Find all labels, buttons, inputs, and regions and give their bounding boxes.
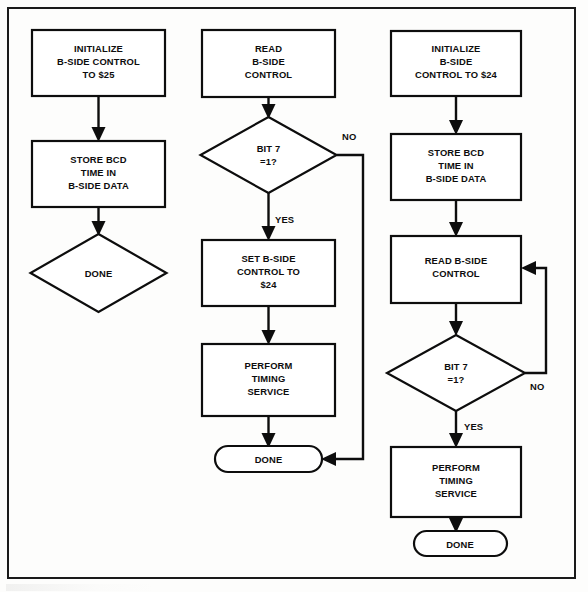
arrowhead-right-init-to-store — [449, 120, 463, 135]
node-mid-read-control-line-3: CONTROL — [245, 69, 293, 80]
node-right-initialize-line-2: B-SIDE — [440, 56, 473, 67]
node-right-read-control-line-2: CONTROL — [432, 268, 480, 279]
node-mid-bit7-line-2: =1? — [260, 156, 277, 167]
column-left: INITIALIZE B-SIDE CONTROL TO $25 STORE B… — [31, 30, 167, 312]
arrowhead-right-store-to-read — [449, 222, 463, 237]
node-left-store-bcd-line-2: TIME IN — [81, 167, 117, 178]
node-mid-set-control-line-3: $24 — [260, 279, 277, 290]
edge-label-right-no: NO — [530, 381, 544, 392]
node-right-perform-line-2: TIMING — [439, 475, 473, 486]
node-mid-set-control-line-2: CONTROL TO — [237, 266, 300, 277]
node-right-store-bcd-line-1: STORE BCD — [428, 147, 484, 158]
node-right-initialize-line-3: CONTROL TO $24 — [415, 69, 498, 80]
node-right-perform-line-3: SERVICE — [435, 488, 477, 499]
edge-label-mid-yes: YES — [275, 214, 294, 225]
node-right-store-bcd-line-3: B-SIDE DATA — [426, 173, 487, 184]
node-mid-read-control-line-2: B-SIDE — [252, 56, 285, 67]
column-middle: READ B-SIDE CONTROL BIT 7 =1? NO YES SET… — [201, 30, 364, 472]
node-right-store-bcd-line-2: TIME IN — [438, 160, 474, 171]
node-mid-bit7-line-1: BIT 7 — [257, 143, 281, 154]
node-mid-set-control-line-1: SET B-SIDE — [241, 253, 295, 264]
node-left-initialize-line-1: INITIALIZE — [74, 43, 123, 54]
scan-artifact — [6, 584, 156, 591]
node-right-perform-line-1: PERFORM — [432, 462, 480, 473]
node-left-store-bcd-line-1: STORE BCD — [70, 154, 126, 165]
flowchart-figure: INITIALIZE B-SIDE CONTROL TO $25 STORE B… — [0, 0, 588, 592]
column-right: INITIALIZE B-SIDE CONTROL TO $24 STORE B… — [387, 31, 546, 556]
node-mid-perform-line-3: SERVICE — [247, 386, 289, 397]
node-left-store-bcd-line-3: B-SIDE DATA — [68, 180, 129, 191]
node-mid-perform-line-2: TIMING — [252, 373, 286, 384]
arrowhead-mid-set-to-perform — [262, 330, 276, 345]
node-mid-done-label: DONE — [255, 454, 283, 465]
node-right-bit7-line-1: BIT 7 — [444, 361, 468, 372]
arrowhead-left-init-to-store — [92, 127, 106, 142]
node-right-bit7-decision[interactable] — [387, 335, 525, 411]
node-mid-perform-line-1: PERFORM — [245, 360, 293, 371]
arrowhead-mid-yes-to-set — [262, 226, 276, 241]
arrowhead-mid-no-to-done — [321, 452, 336, 466]
arrowhead-right-yes-to-perform — [449, 433, 463, 448]
node-right-initialize-line-1: INITIALIZE — [432, 43, 481, 54]
edge-mid-no-branch — [334, 155, 363, 459]
arrowhead-right-no-to-read — [521, 261, 536, 275]
node-right-read-control-line-1: READ B-SIDE — [425, 255, 488, 266]
node-right-done-label: DONE — [446, 539, 474, 550]
node-mid-read-control-line-1: READ — [255, 43, 282, 54]
flowchart-canvas: INITIALIZE B-SIDE CONTROL TO $25 STORE B… — [0, 0, 588, 592]
node-left-done-label: DONE — [85, 268, 113, 279]
edge-label-right-yes: YES — [464, 421, 483, 432]
edge-right-no-loopback — [525, 268, 546, 373]
node-left-initialize-line-2: B-SIDE CONTROL — [57, 56, 140, 67]
edge-label-mid-no: NO — [342, 131, 356, 142]
node-left-initialize-line-3: TO $25 — [83, 69, 115, 80]
node-right-bit7-line-2: =1? — [448, 374, 465, 385]
node-mid-bit7-decision[interactable] — [201, 117, 337, 193]
